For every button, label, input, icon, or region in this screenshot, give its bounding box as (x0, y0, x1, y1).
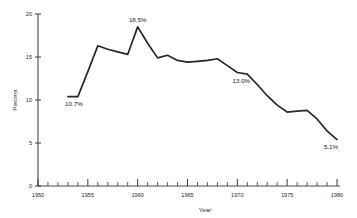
annotation-label-1: 18.5% (129, 16, 147, 23)
x-tick-label-1960: 1960 (131, 192, 143, 198)
y-axis-title: Percent (11, 89, 18, 111)
annotation-label-3: 5.1% (324, 143, 339, 150)
chart-background (0, 0, 357, 218)
line-chart: 05101520 1950195519601965197019751980 Pe… (0, 0, 357, 218)
x-tick-label-1975: 1975 (281, 192, 293, 198)
y-tick-label-10: 10 (26, 97, 32, 103)
annotation-label-2: 13.0% (233, 77, 251, 84)
y-tick-label-15: 15 (26, 54, 32, 60)
x-tick-label-1980: 1980 (331, 192, 343, 198)
x-tick-label-1950: 1950 (32, 192, 44, 198)
y-tick-label-5: 5 (29, 140, 32, 146)
chart-canvas: 05101520 1950195519601965197019751980 Pe… (0, 0, 357, 218)
annotation-label-0: 10.7% (65, 100, 83, 107)
x-tick-label-1970: 1970 (231, 192, 243, 198)
y-tick-label-0: 0 (29, 183, 32, 189)
y-tick-label-20: 20 (26, 11, 32, 17)
x-tick-label-1955: 1955 (82, 192, 94, 198)
x-axis-title: Year (199, 206, 212, 213)
x-tick-label-1965: 1965 (181, 192, 193, 198)
